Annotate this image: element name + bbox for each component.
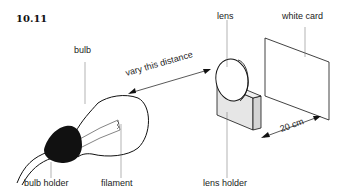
bulb-glass-icon bbox=[75, 96, 149, 157]
label-bulb-holder: bulb holder bbox=[24, 178, 69, 188]
label-white-card: white card bbox=[282, 11, 323, 21]
white-card-icon bbox=[265, 38, 329, 120]
diagram-drawing bbox=[0, 0, 343, 195]
label-lens-holder: lens holder bbox=[203, 178, 247, 188]
label-bulb: bulb bbox=[74, 45, 91, 55]
figure-number: 10.11 bbox=[16, 13, 47, 24]
bulb-holder-icon bbox=[44, 126, 82, 163]
label-filament: filament bbox=[101, 178, 133, 188]
label-lens: lens bbox=[217, 11, 234, 21]
